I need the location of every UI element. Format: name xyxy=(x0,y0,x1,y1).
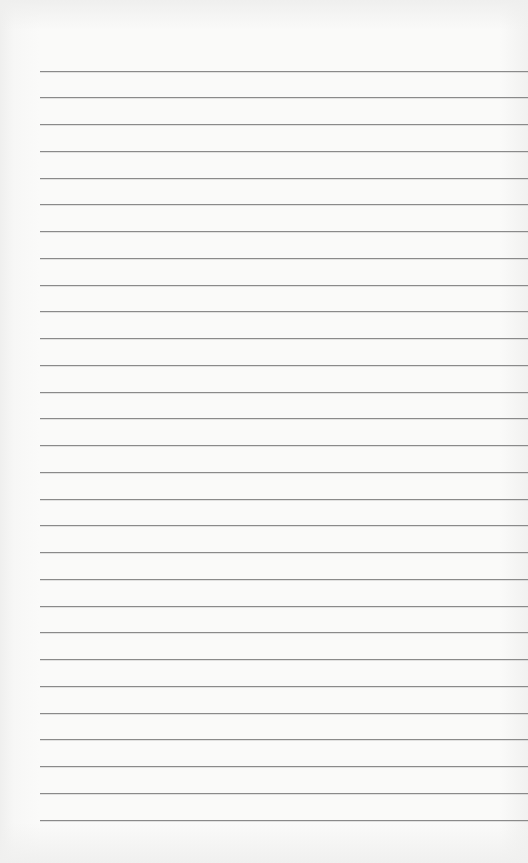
ruled-line xyxy=(40,338,528,339)
ruled-line xyxy=(40,285,528,286)
ruled-line xyxy=(40,445,528,446)
ruled-line xyxy=(40,632,528,633)
ruled-line xyxy=(40,97,528,98)
ruled-line xyxy=(40,392,528,393)
ruled-line xyxy=(40,124,528,125)
ruled-line xyxy=(40,151,528,152)
ruled-line xyxy=(40,499,528,500)
ruled-line xyxy=(40,472,528,473)
ruled-line xyxy=(40,71,528,72)
ruled-line xyxy=(40,204,528,205)
ruled-line xyxy=(40,525,528,526)
ruled-line xyxy=(40,552,528,553)
ruled-line xyxy=(40,311,528,312)
ruled-line xyxy=(40,178,528,179)
ruled-line xyxy=(40,258,528,259)
ruled-line xyxy=(40,579,528,580)
ruled-line xyxy=(40,418,528,419)
ruled-line xyxy=(40,820,528,821)
ruled-line xyxy=(40,231,528,232)
lined-paper-page xyxy=(0,0,528,863)
ruled-line xyxy=(40,659,528,660)
ruled-line xyxy=(40,365,528,366)
ruled-line xyxy=(40,766,528,767)
ruled-line xyxy=(40,606,528,607)
ruled-line xyxy=(40,739,528,740)
ruled-line xyxy=(40,793,528,794)
ruled-line xyxy=(40,713,528,714)
ruled-line xyxy=(40,686,528,687)
